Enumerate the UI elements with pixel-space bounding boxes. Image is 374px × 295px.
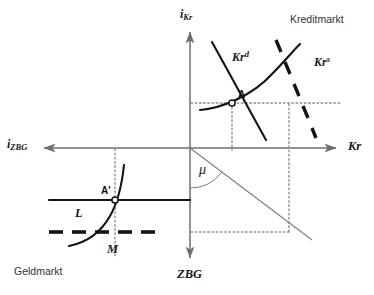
economics-diagram: iKr iZBG Kr ZBG Kreditmarkt Geldmarkt Kr… [0,0,374,295]
point-label-a-prime: A' [101,186,111,196]
quadrant-title-kreditmarkt: Kreditmarkt [290,14,344,25]
point-label-a: A [238,90,245,100]
policy-dash-5 [312,128,316,138]
quadrant-title-geldmarkt: Geldmarkt [14,266,62,277]
diagram-canvas [0,0,374,295]
policy-dash-2 [285,62,290,74]
credit-market-curves [200,42,300,140]
transmission-ray [190,148,312,240]
axis-label-zbg: ZBG [177,268,202,281]
axis-label-kr: Kr [348,140,361,153]
policy-dash-3 [294,84,299,96]
curve-label-money-supply-l: L [75,207,83,220]
policy-dash-4 [303,106,308,118]
policy-dash-1 [276,40,281,52]
credit-policy-dashed-line [276,40,316,138]
curve-label-credit-demand: Krd [232,50,249,63]
axis-label-i-zbg: iZBG [7,138,27,152]
money-market-curves [49,165,190,246]
credit-supply-curve [200,44,300,110]
point-a-marker [229,100,235,106]
transmission-group [190,148,312,240]
point-a-prime-marker [112,197,118,203]
axis-label-i-kr: iKr [180,8,192,22]
curve-label-money-demand-m: M [107,243,118,256]
axis-group [44,32,336,258]
guide-lines [115,103,340,258]
angle-label-mu: μ [199,163,206,177]
curve-label-credit-supply: Krs [314,55,330,68]
